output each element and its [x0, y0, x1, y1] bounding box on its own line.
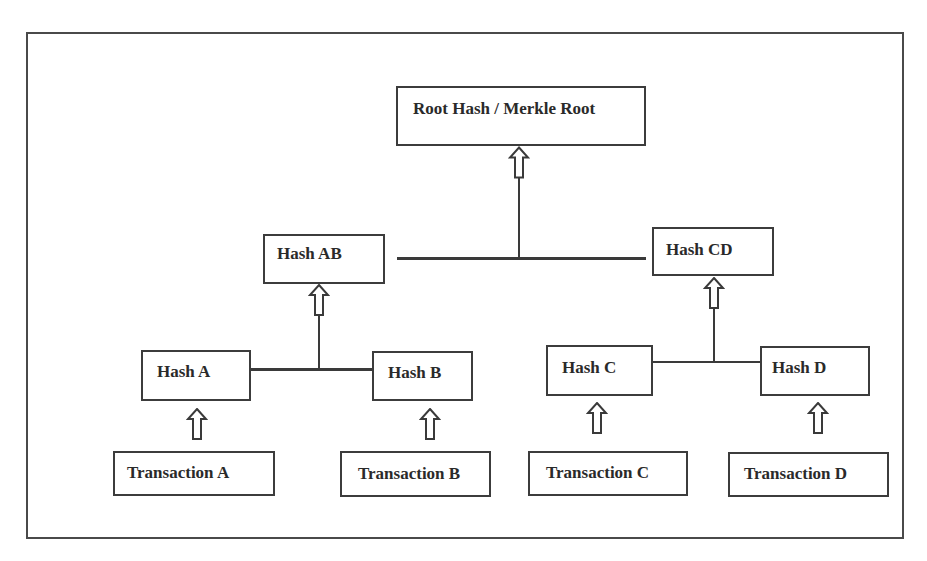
transaction-a-label: Transaction A [127, 464, 229, 481]
root-hash-label: Root Hash / Merkle Root [413, 100, 595, 117]
connector-line [652, 361, 760, 363]
transaction-d-label: Transaction D [744, 465, 847, 482]
up-arrow-icon [508, 146, 530, 179]
hash-cd-label: Hash CD [666, 241, 733, 258]
up-arrow-icon [586, 402, 608, 434]
hash-b-label: Hash B [388, 364, 441, 381]
transaction-b-label: Transaction B [358, 465, 460, 482]
connector-line [713, 308, 715, 363]
root-hash-node: Root Hash / Merkle Root [396, 86, 646, 146]
up-arrow-icon [186, 408, 208, 440]
hash-b-node: Hash B [372, 351, 473, 401]
transaction-d-node: Transaction D [728, 452, 889, 497]
up-arrow-icon [308, 284, 330, 316]
transaction-c-label: Transaction C [546, 464, 649, 481]
hash-cd-node: Hash CD [652, 227, 774, 276]
connector-line [397, 257, 646, 260]
hash-c-node: Hash C [546, 345, 653, 396]
connector-line [518, 178, 520, 259]
transaction-a-node: Transaction A [113, 451, 275, 496]
transaction-b-node: Transaction B [340, 451, 491, 497]
up-arrow-icon [703, 277, 725, 309]
up-arrow-icon [807, 402, 829, 434]
hash-a-label: Hash A [157, 363, 210, 380]
hash-a-node: Hash A [141, 350, 251, 401]
hash-d-node: Hash D [760, 346, 870, 396]
hash-ab-node: Hash AB [263, 234, 385, 284]
hash-d-label: Hash D [772, 359, 826, 376]
connector-line [318, 315, 320, 370]
up-arrow-icon [419, 408, 441, 440]
hash-c-label: Hash C [562, 359, 616, 376]
transaction-c-node: Transaction C [528, 451, 688, 496]
hash-ab-label: Hash AB [277, 245, 342, 262]
connector-line [250, 368, 372, 371]
